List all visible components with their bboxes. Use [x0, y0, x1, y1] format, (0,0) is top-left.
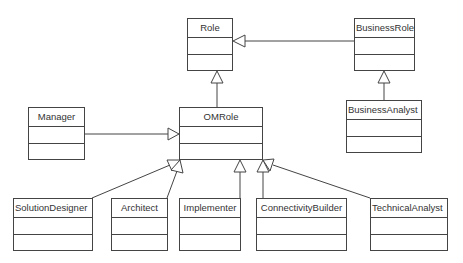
- class-architect: Architect: [111, 198, 168, 251]
- class-name: BusinessRole: [355, 19, 414, 38]
- generalization-arrowhead-icon: [378, 71, 390, 83]
- attributes-compartment: [355, 38, 414, 55]
- class-manager: Manager: [28, 107, 85, 160]
- uml-diagram: Role BusinessRole BusinessAnalyst Manage…: [0, 0, 463, 263]
- operations-compartment: [112, 235, 167, 251]
- operations-compartment: [371, 235, 447, 251]
- generalization-arrowhead-icon: [234, 160, 246, 172]
- operations-compartment: [188, 55, 232, 71]
- class-name: ConnectivityBuilder: [257, 199, 346, 218]
- class-name: Role: [188, 19, 232, 38]
- attributes-compartment: [14, 218, 92, 235]
- class-name: OMRole: [180, 108, 262, 127]
- attributes-compartment: [257, 218, 346, 235]
- class-name: SolutionDesigner: [14, 199, 92, 218]
- class-name: TechnicalAnalyst: [371, 199, 447, 218]
- class-implementer: Implementer: [179, 198, 241, 251]
- class-name: Manager: [29, 108, 84, 127]
- attributes-compartment: [188, 38, 232, 55]
- class-businessanalyst: BusinessAnalyst: [346, 100, 422, 153]
- operations-compartment: [29, 144, 84, 160]
- class-omrole: OMRole: [179, 107, 263, 160]
- class-technicalanalyst: TechnicalAnalyst: [370, 198, 448, 251]
- operations-compartment: [14, 235, 92, 251]
- class-name: Architect: [112, 199, 167, 218]
- operations-compartment: [180, 235, 240, 251]
- generalization-arrowhead-icon: [233, 35, 245, 47]
- operations-compartment: [180, 144, 262, 160]
- operations-compartment: [257, 235, 346, 251]
- edge-technicalanalyst-omrole: [273, 165, 370, 198]
- class-name: BusinessAnalyst: [347, 101, 421, 120]
- class-role: Role: [187, 18, 233, 71]
- class-connectivitybuilder: ConnectivityBuilder: [256, 198, 347, 251]
- edge-architect-omrole: [167, 171, 177, 198]
- attributes-compartment: [371, 218, 447, 235]
- attributes-compartment: [180, 127, 262, 144]
- class-businessrole: BusinessRole: [354, 18, 415, 71]
- operations-compartment: [355, 55, 414, 71]
- attributes-compartment: [347, 120, 421, 137]
- attributes-compartment: [180, 218, 240, 235]
- class-name: Implementer: [180, 199, 240, 218]
- class-solutiondesigner: SolutionDesigner: [13, 198, 93, 251]
- operations-compartment: [347, 137, 421, 153]
- attributes-compartment: [29, 127, 84, 144]
- edge-solutiondesigner-omrole: [92, 165, 170, 198]
- attributes-compartment: [112, 218, 167, 235]
- generalization-arrowhead-icon: [168, 128, 179, 140]
- generalization-arrowhead-icon: [211, 71, 223, 83]
